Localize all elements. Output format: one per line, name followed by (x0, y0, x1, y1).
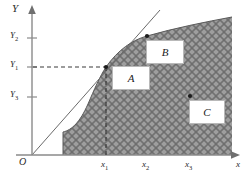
point-dot-A (104, 65, 108, 69)
x-axis-arrow-icon (231, 151, 240, 159)
y-axis-label: Y (12, 3, 18, 14)
point-dot-B (145, 34, 149, 38)
origin-label: O (19, 157, 26, 167)
x-tick-label-x2: x2 (142, 160, 149, 171)
point-label-box-C: C (189, 100, 225, 124)
point-dot-C (188, 94, 192, 98)
math-figure: Y x O Y2 Y1 Y3 x1 x2 x3 A B C (0, 0, 247, 184)
y-tick-label-Y1: Y1 (10, 60, 18, 71)
x-tick-label-x3: x3 (185, 160, 192, 171)
y-tick-label-Y2: Y2 (10, 31, 18, 42)
x-axis-label: x (236, 160, 240, 169)
point-label-box-A: A (112, 66, 150, 90)
y-axis-arrow-icon (28, 5, 36, 14)
point-label-box-B: B (146, 40, 184, 64)
y-tick-label-Y3: Y3 (10, 90, 18, 101)
figure-canvas (0, 0, 247, 184)
x-tick-label-x1: x1 (101, 160, 108, 171)
